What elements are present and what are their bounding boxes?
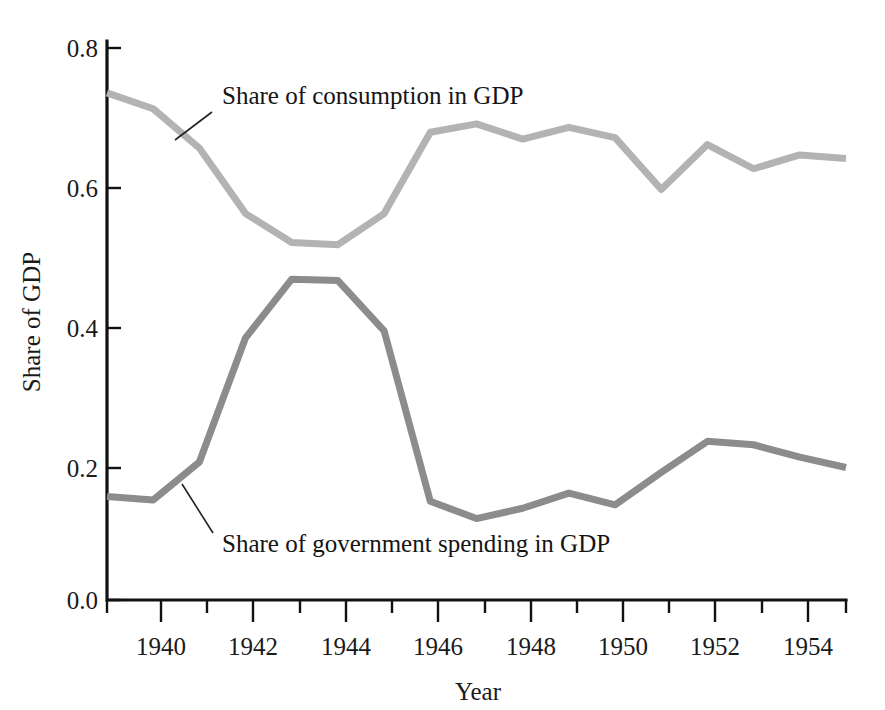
y-tick-label-0.2: 0.2 (67, 455, 98, 482)
x-tick-label-1948: 1948 (506, 633, 556, 660)
x-tick-label-1942: 1942 (228, 633, 278, 660)
annotation-label-government-spending: Share of government spending in GDP (222, 530, 610, 557)
annotation-leader-government-spending (182, 484, 213, 533)
x-tick-label-1954: 1954 (783, 633, 834, 660)
x-tick-label-1950: 1950 (598, 633, 648, 660)
series-line-consumption (107, 93, 846, 245)
y-axis-title: Share of GDP (18, 252, 45, 392)
series-line-government-spending (107, 279, 846, 518)
y-tick-label-0.0: 0.0 (67, 587, 98, 614)
y-axis-ticks (107, 48, 121, 600)
x-axis-minor-ticks (107, 600, 846, 613)
x-tick-label-1952: 1952 (690, 633, 740, 660)
x-tick-label-1944: 1944 (321, 633, 372, 660)
y-tick-label-0.6: 0.6 (67, 175, 98, 202)
x-axis-title: Year (455, 678, 502, 705)
annotation-label-consumption: Share of consumption in GDP (222, 82, 523, 109)
x-tick-label-1940: 1940 (136, 633, 186, 660)
chart-page: 0.8 0.6 0.4 0.2 0.0 Share of GDP (0, 0, 885, 710)
y-tick-label-0.4: 0.4 (67, 315, 99, 342)
line-chart: 0.8 0.6 0.4 0.2 0.0 Share of GDP (0, 0, 885, 710)
annotation-leader-consumption (175, 112, 212, 140)
x-tick-label-1946: 1946 (413, 633, 463, 660)
y-tick-label-0.8: 0.8 (67, 35, 98, 62)
